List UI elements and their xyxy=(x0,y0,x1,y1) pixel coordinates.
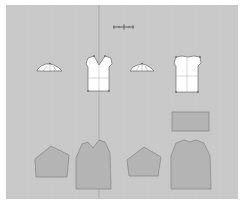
front-panel-piece[interactable] xyxy=(76,140,111,189)
back-bodice-piece[interactable] xyxy=(174,56,201,93)
waistband-piece[interactable] xyxy=(172,112,209,131)
pattern-canvas[interactable] xyxy=(6,5,238,199)
back-panel-piece[interactable] xyxy=(171,140,211,189)
canvas-margin xyxy=(238,0,248,208)
pattern-layout xyxy=(6,5,238,199)
